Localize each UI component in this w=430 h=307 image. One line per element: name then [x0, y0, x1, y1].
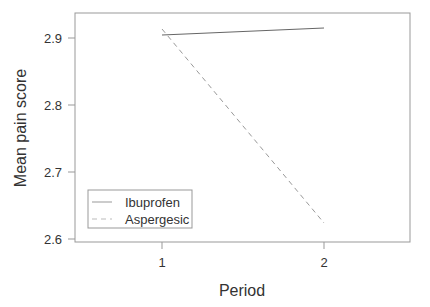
legend-label-ibuprofen: Ibuprofen: [125, 195, 180, 210]
x-axis: 1 2: [158, 242, 327, 270]
y-tick-label: 2.6: [44, 232, 62, 247]
x-tick-label: 1: [158, 255, 165, 270]
y-tick-label: 2.7: [44, 165, 62, 180]
legend: Ibuprofen Aspergesic: [88, 190, 192, 228]
y-axis: 2.9 2.8 2.7 2.6: [44, 31, 75, 247]
y-tick-label: 2.8: [44, 98, 62, 113]
series-ibuprofen-line: [162, 28, 324, 35]
legend-label-aspergesic: Aspergesic: [125, 212, 190, 227]
y-axis-title: Mean pain score: [12, 69, 29, 187]
line-chart: 2.9 2.8 2.7 2.6 1 2 Period Mean pain sco…: [0, 0, 430, 307]
x-axis-title: Period: [219, 282, 265, 299]
x-tick-label: 2: [320, 255, 327, 270]
y-tick-label: 2.9: [44, 31, 62, 46]
